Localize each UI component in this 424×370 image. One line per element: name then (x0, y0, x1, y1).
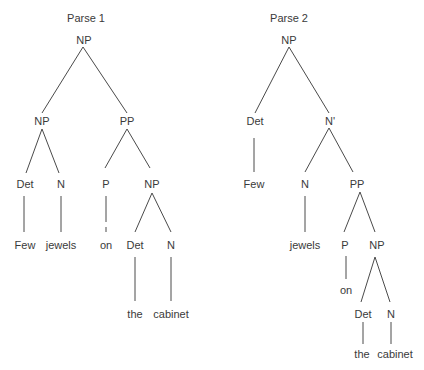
parse1-word-jewels: jewels (46, 239, 77, 251)
parse2-det: Det (246, 115, 263, 127)
parse1-word-the: the (127, 308, 142, 320)
parse2-word-the: the (354, 348, 369, 360)
parse2-np: NP (369, 239, 384, 251)
parse2-np-det: Det (354, 308, 371, 320)
parse1-pp: PP (120, 115, 135, 127)
parse2-word-on: on (340, 284, 352, 296)
parse1-det: Det (16, 178, 33, 190)
parse1-np-det: Det (126, 239, 143, 251)
parse1-p: P (102, 178, 109, 190)
parse2-title: Parse 2 (270, 12, 308, 24)
parse2-n: N (301, 178, 309, 190)
parse2-pp: PP (350, 178, 365, 190)
parse2-nbar: N' (325, 115, 335, 127)
parse1-np-n: N (167, 239, 175, 251)
parse2-word-jewels: jewels (290, 239, 321, 251)
parse1-word-on: on (100, 239, 112, 251)
parse1-n: N (57, 178, 65, 190)
parse2-p: P (341, 239, 348, 251)
parse1-root-np: NP (76, 34, 91, 46)
parse1-np-left: NP (34, 115, 49, 127)
parse1-np-right: NP (144, 178, 159, 190)
parse2-root-np: NP (281, 34, 296, 46)
parse1-word-few: Few (15, 239, 36, 251)
parse2-word-cabinet: cabinet (377, 348, 412, 360)
parse1-title: Parse 1 (67, 12, 105, 24)
parse2-word-few: Few (244, 178, 265, 190)
parse2-np-n: N (387, 308, 395, 320)
parse1-word-cabinet: cabinet (153, 308, 188, 320)
